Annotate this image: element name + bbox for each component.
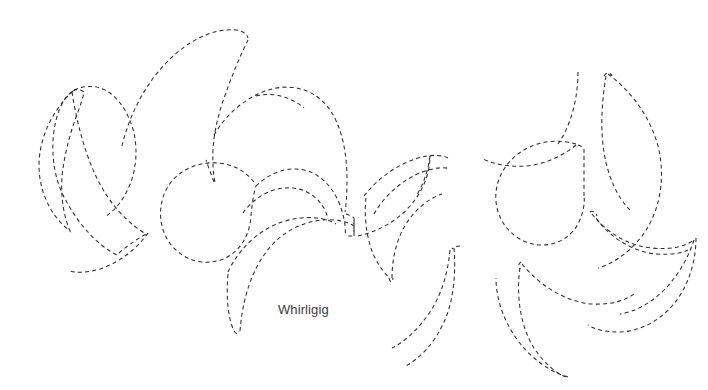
whirligig-line-art: Whirligig (0, 0, 708, 390)
figure-caption: Whirligig (278, 302, 329, 317)
whirligig-figure-canvas: Whirligig (0, 0, 708, 390)
